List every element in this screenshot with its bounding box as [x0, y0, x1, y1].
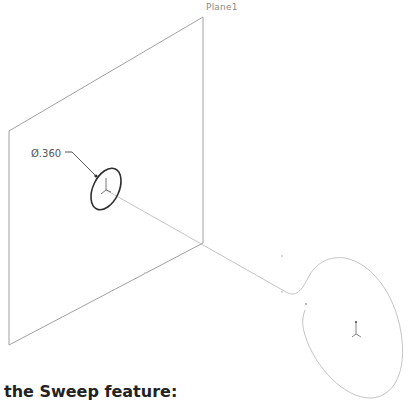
sketch-point: [281, 255, 283, 257]
diameter-dimension: Ø.360: [31, 148, 61, 159]
sketch-point: [144, 272, 146, 274]
origin-triad-icon-2: [352, 322, 361, 337]
sweep-diagram-canvas: [0, 0, 410, 403]
origin-triad-icon: [101, 178, 111, 194]
sketch-point: [281, 291, 283, 293]
triad-tip: [355, 321, 357, 323]
sweep-path: [106, 190, 403, 398]
leader-dot: [94, 174, 97, 177]
dimension-leader: [65, 152, 96, 176]
caption-text: the Sweep feature:: [4, 382, 177, 401]
sketch-point: [305, 303, 307, 305]
plane1-label: Plane1: [206, 2, 238, 12]
